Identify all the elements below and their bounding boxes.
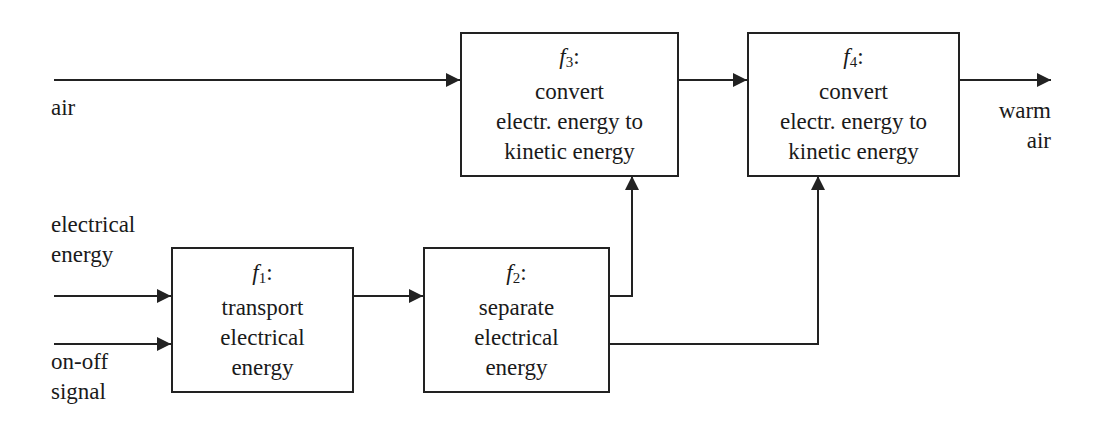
function-text-line: energy — [485, 353, 547, 383]
function-text-line: kinetic energy — [504, 137, 635, 167]
function-text-line: electrical — [474, 323, 558, 353]
output-label-warm-air: warm air — [980, 96, 1051, 156]
function-text-line: electrical — [220, 323, 304, 353]
label-line: signal — [51, 377, 108, 407]
label-line: on-off — [51, 347, 108, 377]
label-line: air — [980, 126, 1051, 156]
function-text-line: separate — [479, 293, 554, 323]
function-text-line: kinetic energy — [788, 137, 919, 167]
function-label-f4: f4: — [843, 42, 863, 77]
arrow-f2-to-f3 — [609, 176, 632, 296]
function-text-line: electr. energy to — [780, 107, 927, 137]
function-label-f1: f1: — [252, 258, 272, 293]
function-text-line: convert — [535, 77, 604, 107]
label-line: energy — [51, 240, 135, 270]
function-label-f2: f2: — [506, 258, 526, 293]
function-box-f3: f3: convert electr. energy to kinetic en… — [460, 32, 679, 177]
input-label-electrical-energy: electrical energy — [51, 210, 135, 270]
function-text-line: convert — [819, 77, 888, 107]
function-box-f1: f1: transport electrical energy — [171, 247, 354, 393]
label-line: electrical — [51, 210, 135, 240]
input-label-on-off-signal: on-off signal — [51, 347, 108, 407]
function-box-f2: f2: separate electrical energy — [423, 247, 610, 393]
label-line: warm — [980, 96, 1051, 126]
function-box-f4: f4: convert electr. energy to kinetic en… — [747, 32, 960, 177]
function-text-line: energy — [231, 353, 293, 383]
input-label-air: air — [51, 93, 75, 123]
function-text-line: transport — [222, 293, 304, 323]
arrow-f2-to-f4 — [609, 176, 818, 344]
function-label-f3: f3: — [559, 42, 579, 77]
function-text-line: electr. energy to — [496, 107, 643, 137]
